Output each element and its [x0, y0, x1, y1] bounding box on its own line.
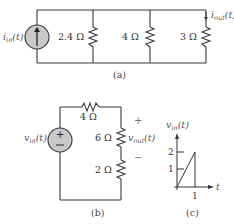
caption-c: (c) — [186, 207, 199, 218]
resistor-icon — [82, 103, 99, 111]
circuit-a: iin(t) 2.4 Ω 4 Ω 3 Ω iout(t) (a) — [3, 9, 234, 80]
voltage-source-icon: + — [48, 128, 72, 152]
resistor-label-6: 6 Ω — [95, 132, 112, 143]
x-tick-1: 1 — [192, 191, 198, 201]
resistor-icon — [89, 27, 97, 47]
resistor-label-2: 2 Ω — [95, 164, 112, 175]
circuit-b: 4 Ω + vin(t) 6 Ω 2 Ω + vout(t) − (b) — [24, 103, 156, 218]
x-axis-label: t — [216, 181, 220, 192]
resistor-icon — [117, 128, 125, 147]
output-label-iout: iout(t) — [211, 9, 234, 22]
resistor-label-4-series: 4 Ω — [80, 111, 97, 122]
y-ticks — [177, 152, 184, 169]
vout-minus: − — [134, 152, 142, 163]
resistor-label-2p4: 2.4 Ω — [58, 31, 84, 42]
resistor-icon — [117, 160, 125, 179]
resistor-icon — [146, 27, 154, 47]
vout-plus: + — [134, 115, 142, 126]
chart-c: vin(t) t 2 1 1 (c) — [166, 119, 220, 218]
svg-text:+: + — [56, 129, 64, 140]
caption-a: (a) — [113, 69, 126, 80]
output-label-vout: vout(t) — [128, 132, 156, 145]
resistor-label-4: 4 Ω — [122, 31, 139, 42]
y-tick-2: 2 — [168, 147, 174, 157]
resistor-icon — [202, 27, 210, 47]
current-source-icon — [25, 25, 49, 49]
y-axis-label: vin(t) — [166, 119, 189, 132]
resistor-label-3: 3 Ω — [180, 31, 197, 42]
y-tick-1: 1 — [168, 164, 174, 174]
caption-b: (b) — [91, 207, 105, 218]
circuit-figure: iin(t) 2.4 Ω 4 Ω 3 Ω iout(t) (a) 4 Ω + — [0, 0, 234, 224]
y-axis-arrow-icon — [175, 133, 179, 139]
current-arrow-icon — [204, 12, 208, 21]
source-label-vin: vin(t) — [24, 132, 47, 145]
x-axis-arrow-icon — [208, 185, 214, 189]
source-label-iin: iin(t) — [3, 31, 24, 44]
